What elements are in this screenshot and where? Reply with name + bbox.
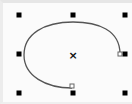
center-marker-icon[interactable]: × xyxy=(68,49,77,62)
resize-handle-top-left[interactable] xyxy=(17,13,22,18)
resize-handle-bottom-right[interactable] xyxy=(123,91,128,96)
resize-handle-bottom-center[interactable] xyxy=(71,91,76,96)
resize-handle-middle-right[interactable] xyxy=(123,52,128,57)
arc-end-node[interactable] xyxy=(70,84,74,88)
resize-handle-top-center[interactable] xyxy=(71,13,76,18)
resize-handle-top-right[interactable] xyxy=(123,13,128,18)
resize-handle-middle-left[interactable] xyxy=(17,52,22,57)
drawing-layer: × xyxy=(0,0,132,104)
arc-start-node[interactable] xyxy=(118,52,122,56)
resize-handle-bottom-left[interactable] xyxy=(17,91,22,96)
